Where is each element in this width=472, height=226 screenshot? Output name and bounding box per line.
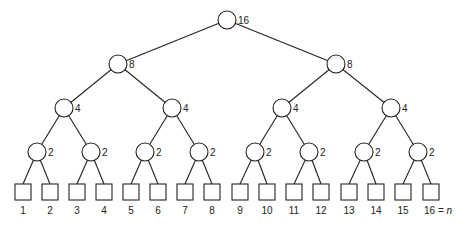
node-count-label: 2 bbox=[210, 147, 216, 158]
tree-node: 2 bbox=[246, 143, 272, 161]
tree-node: 16 bbox=[218, 11, 250, 29]
leaf-square bbox=[123, 184, 139, 200]
node-circle bbox=[218, 11, 236, 29]
tree-node: 2 bbox=[82, 143, 108, 161]
node-count-label: 4 bbox=[75, 103, 81, 114]
tree-node: 4 bbox=[163, 99, 189, 117]
leaf-index-label: 7 bbox=[182, 205, 188, 216]
leaf-square bbox=[204, 184, 220, 200]
node-circle bbox=[109, 55, 127, 73]
tree-node: 2 bbox=[409, 143, 435, 161]
leaf-square bbox=[259, 184, 275, 200]
leaf-index-label: 10 bbox=[261, 205, 273, 216]
node-count-label: 2 bbox=[320, 147, 326, 158]
leaf-node: 4 bbox=[96, 184, 112, 216]
leaf-node: 10 bbox=[259, 184, 275, 216]
leaf-index-label: 9 bbox=[237, 205, 243, 216]
leaf-square bbox=[286, 184, 302, 200]
node-circle bbox=[28, 143, 46, 161]
tree-node: 8 bbox=[109, 55, 135, 73]
leaf-node: 6 bbox=[150, 184, 166, 216]
leaf-node: 1 bbox=[15, 184, 31, 216]
node-circle bbox=[82, 143, 100, 161]
leaf-node: 5 bbox=[123, 184, 139, 216]
leaf-square bbox=[341, 184, 357, 200]
tree-node: 2 bbox=[355, 143, 381, 161]
leaf-square bbox=[232, 184, 248, 200]
node-count-label: 2 bbox=[156, 147, 162, 158]
binary-tree-diagram: 1688444422222222 12345678910111213141516… bbox=[0, 0, 472, 226]
tree-edge bbox=[118, 20, 227, 64]
leaf-index-label: 14 bbox=[370, 205, 382, 216]
leaf-square bbox=[313, 184, 329, 200]
node-count-label: 2 bbox=[266, 147, 272, 158]
leaf-index-label: 15 bbox=[397, 205, 409, 216]
leaf-square bbox=[423, 184, 439, 200]
leaf-index-label: 12 bbox=[315, 205, 327, 216]
leaf-index-label: 6 bbox=[155, 205, 161, 216]
tree-node: 2 bbox=[190, 143, 216, 161]
leaf-index-label: 4 bbox=[101, 205, 107, 216]
node-count-label: 4 bbox=[402, 103, 408, 114]
leaf-square bbox=[42, 184, 58, 200]
leaf-index-label: 13 bbox=[343, 205, 355, 216]
node-count-label: 2 bbox=[48, 147, 54, 158]
leaf-index-label: 16 = n bbox=[424, 205, 453, 216]
node-circle bbox=[273, 99, 291, 117]
leaf-node: 14 bbox=[368, 184, 384, 216]
leaf-index-label: 5 bbox=[128, 205, 134, 216]
node-circle bbox=[409, 143, 427, 161]
node-count-label: 2 bbox=[102, 147, 108, 158]
leaf-square bbox=[15, 184, 31, 200]
tree-edge bbox=[64, 64, 118, 108]
node-circle bbox=[190, 143, 208, 161]
leaf-index-label: 1 bbox=[20, 205, 26, 216]
tree-edge bbox=[282, 64, 336, 108]
node-circle bbox=[55, 99, 73, 117]
node-count-label: 2 bbox=[375, 147, 381, 158]
leaf-index-label: 8 bbox=[209, 205, 215, 216]
node-circle bbox=[136, 143, 154, 161]
node-circle bbox=[382, 99, 400, 117]
node-count-label: 8 bbox=[347, 59, 353, 70]
tree-node: 4 bbox=[273, 99, 299, 117]
leaf-square bbox=[368, 184, 384, 200]
leaf-index-label: 11 bbox=[289, 205, 300, 216]
leaf-square bbox=[69, 184, 85, 200]
internal-nodes: 1688444422222222 bbox=[28, 11, 435, 161]
leaf-node: 8 bbox=[204, 184, 220, 216]
leaf-node: 16 = n bbox=[423, 184, 453, 216]
node-circle bbox=[355, 143, 373, 161]
leaf-index-label: 2 bbox=[47, 205, 53, 216]
leaf-square bbox=[177, 184, 193, 200]
leaf-node: 2 bbox=[42, 184, 58, 216]
node-count-label: 2 bbox=[429, 147, 435, 158]
node-circle bbox=[163, 99, 181, 117]
leaf-node: 13 bbox=[341, 184, 357, 216]
tree-node: 2 bbox=[300, 143, 326, 161]
node-circle bbox=[246, 143, 264, 161]
leaf-node: 15 bbox=[395, 184, 411, 216]
tree-node: 4 bbox=[55, 99, 81, 117]
node-circle bbox=[300, 143, 318, 161]
leaf-square bbox=[96, 184, 112, 200]
node-circle bbox=[327, 55, 345, 73]
leaf-node: 9 bbox=[232, 184, 248, 216]
node-count-label: 4 bbox=[293, 103, 299, 114]
tree-edge bbox=[227, 20, 336, 64]
tree-node: 2 bbox=[28, 143, 54, 161]
tree-edge bbox=[336, 64, 391, 108]
leaf-square bbox=[150, 184, 166, 200]
tree-node: 2 bbox=[136, 143, 162, 161]
node-count-label: 8 bbox=[129, 59, 135, 70]
tree-node: 8 bbox=[327, 55, 353, 73]
leaf-node: 12 bbox=[313, 184, 329, 216]
leaf-node: 7 bbox=[177, 184, 193, 216]
node-count-label: 4 bbox=[183, 103, 189, 114]
node-count-label: 16 bbox=[238, 15, 250, 26]
leaf-square bbox=[395, 184, 411, 200]
leaf-nodes: 12345678910111213141516 = n bbox=[15, 184, 453, 216]
tree-edge bbox=[118, 64, 172, 108]
leaf-node: 11 bbox=[286, 184, 302, 216]
leaf-index-label: 3 bbox=[74, 205, 80, 216]
